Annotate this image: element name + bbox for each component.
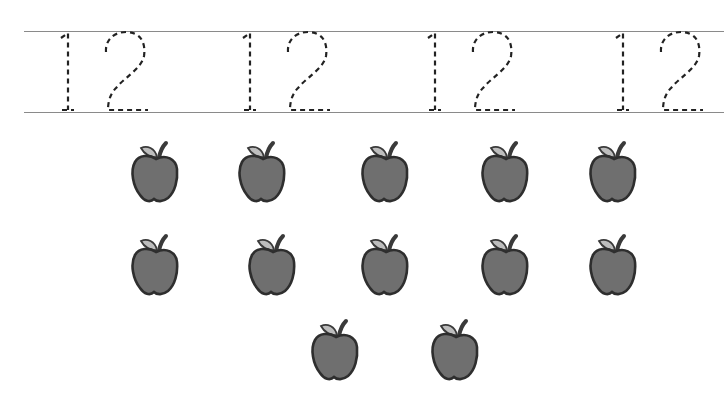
apple-icon xyxy=(479,233,531,299)
apple-icon xyxy=(587,233,639,299)
apple-icon xyxy=(587,140,639,206)
apple-icon xyxy=(236,140,288,206)
apple-icon xyxy=(359,140,411,206)
dashed-number-12-icon xyxy=(58,30,168,114)
apple-icon xyxy=(429,318,481,384)
apple-icon xyxy=(359,233,411,299)
apple-icon xyxy=(479,140,531,206)
apple-icon xyxy=(246,233,298,299)
dashed-number-12-icon xyxy=(240,30,350,114)
apple-icon xyxy=(129,233,181,299)
dashed-number-12-icon xyxy=(613,30,723,114)
apple-icon xyxy=(129,140,181,206)
apple-icon xyxy=(309,318,361,384)
dashed-number-12-icon xyxy=(425,30,535,114)
